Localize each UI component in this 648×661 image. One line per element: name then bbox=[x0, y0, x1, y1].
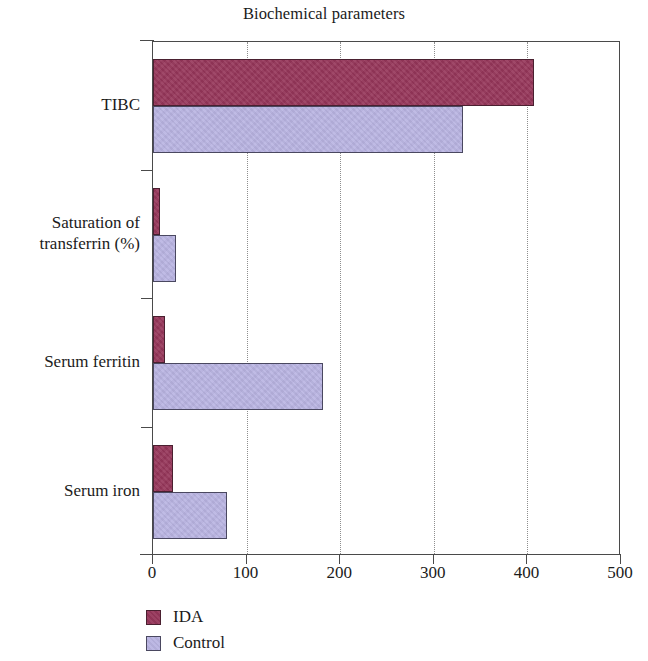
y-tick-3 bbox=[141, 427, 152, 428]
bar-control-0 bbox=[153, 106, 463, 153]
legend-swatch-ida bbox=[146, 610, 161, 625]
category-label-2: Serum ferritin bbox=[0, 351, 140, 372]
x-tick-label-500: 500 bbox=[585, 563, 648, 583]
chart-legend: IDAControl bbox=[146, 604, 406, 656]
legend-item-ida[interactable]: IDA bbox=[146, 604, 406, 630]
x-tick-label-100: 100 bbox=[211, 563, 281, 583]
category-label-line1: Saturation of bbox=[0, 212, 140, 233]
x-tick-label-400: 400 bbox=[491, 563, 561, 583]
bar-ida-0 bbox=[153, 59, 534, 106]
legend-swatch-control bbox=[146, 636, 161, 651]
bar-ida-3 bbox=[153, 445, 173, 492]
bar-control-3 bbox=[153, 492, 227, 539]
legend-label-control: Control bbox=[173, 633, 225, 653]
category-label-line1: TIBC bbox=[0, 94, 140, 115]
gridline-400 bbox=[527, 42, 528, 554]
bar-control-1 bbox=[153, 235, 176, 282]
chart-title: Biochemical parameters bbox=[0, 4, 648, 24]
bar-chart-figure: Biochemical parameters TIBCSaturation of… bbox=[0, 0, 648, 661]
plot-area bbox=[152, 41, 620, 555]
category-label-line2: transferrin (%) bbox=[0, 233, 140, 254]
legend-item-control[interactable]: Control bbox=[146, 630, 406, 656]
x-tick-label-300: 300 bbox=[398, 563, 468, 583]
bar-ida-1 bbox=[153, 188, 160, 235]
x-tick-label-0: 0 bbox=[117, 563, 187, 583]
category-label-0: TIBC bbox=[0, 94, 140, 115]
category-label-line1: Serum ferritin bbox=[0, 351, 140, 372]
y-tick-1 bbox=[141, 170, 152, 171]
category-label-line1: Serum iron bbox=[0, 480, 140, 501]
bar-control-2 bbox=[153, 363, 323, 410]
bar-ida-2 bbox=[153, 316, 165, 363]
y-tick-2 bbox=[141, 298, 152, 299]
x-tick-label-200: 200 bbox=[304, 563, 374, 583]
legend-label-ida: IDA bbox=[173, 607, 203, 627]
category-label-3: Serum iron bbox=[0, 480, 140, 501]
category-label-1: Saturation oftransferrin (%) bbox=[0, 212, 140, 254]
